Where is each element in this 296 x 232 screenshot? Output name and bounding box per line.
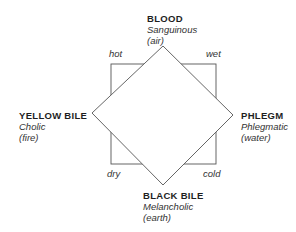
quality-wet: wet	[206, 48, 221, 59]
humor-name: BLOOD	[147, 13, 197, 24]
humor-element: (earth)	[143, 212, 204, 223]
quality-hot: hot	[109, 48, 122, 59]
humor-temperament: Melancholic	[143, 201, 204, 212]
humor-temperament: Sanguinous	[147, 24, 197, 35]
humor-element: (air)	[147, 35, 197, 46]
humor-element: (water)	[241, 132, 288, 143]
humor-element: (fire)	[19, 132, 87, 143]
humor-temperament: Cholic	[19, 121, 87, 132]
humor-temperament: Phlegmatic	[241, 121, 288, 132]
humor-name: YELLOW BILE	[19, 110, 87, 121]
humor-name: PHLEGM	[241, 110, 288, 121]
humor-phlegm: PHLEGM Phlegmatic (water)	[241, 110, 288, 143]
humor-blood: BLOOD Sanguinous (air)	[147, 13, 197, 46]
quality-cold: cold	[203, 168, 220, 179]
quality-dry: dry	[107, 168, 120, 179]
humor-black-bile: BLACK BILE Melancholic (earth)	[143, 190, 204, 223]
humor-name: BLACK BILE	[143, 190, 204, 201]
humor-yellow-bile: YELLOW BILE Cholic (fire)	[19, 110, 87, 143]
